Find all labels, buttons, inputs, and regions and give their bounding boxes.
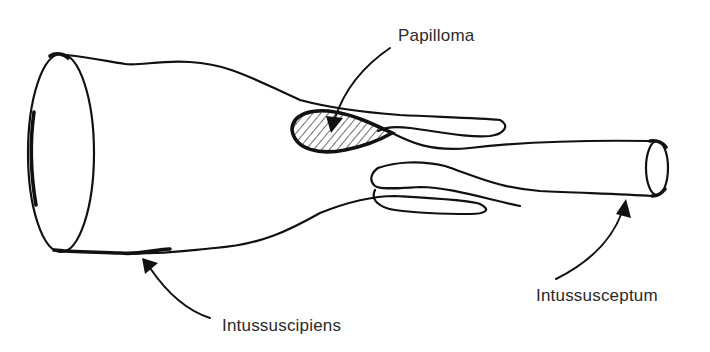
- arrowhead-icon: [142, 258, 158, 274]
- intussusceptum-opening-ellipse: [646, 141, 668, 195]
- intussuscipiens-arrow: [142, 258, 210, 318]
- arrowhead-icon: [616, 199, 631, 218]
- intussusceptum-arrow: [556, 199, 631, 279]
- intussuscipiens-outer-bowel: [28, 54, 520, 254]
- intussuscipiens-label: Intussuscipiens: [222, 316, 341, 336]
- bowel-opening-ellipse: [28, 54, 94, 252]
- papilloma-label: Papilloma: [398, 26, 474, 46]
- intussusceptum-label: Intussusceptum: [536, 286, 658, 306]
